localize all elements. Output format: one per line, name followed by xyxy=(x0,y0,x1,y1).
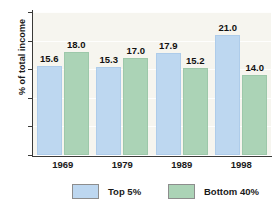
legend-swatch-top5-icon xyxy=(72,184,99,199)
y-axis-title: % of total income xyxy=(17,0,27,127)
y-tick-mark xyxy=(28,155,33,156)
gridline xyxy=(33,12,271,13)
y-tick-mark xyxy=(28,12,33,13)
legend-label-bottom40: Bottom 40% xyxy=(204,187,259,197)
y-tick-mark xyxy=(28,98,33,99)
bar-value-label: 15.3 xyxy=(92,55,125,65)
bar-value-label: 17.0 xyxy=(119,46,152,56)
x-axis-line xyxy=(32,156,272,157)
bar-value-label: 18.0 xyxy=(60,40,93,50)
bar-value-label: 21.0 xyxy=(211,23,244,33)
bar-value-label: 15.6 xyxy=(33,54,66,64)
bar-top5-1989 xyxy=(156,53,181,155)
y-axis-line xyxy=(32,10,33,157)
x-axis-label-1989: 1989 xyxy=(152,160,212,170)
bar-bottom40-1998 xyxy=(242,75,267,155)
chart-legend: Top 5% Bottom 40% xyxy=(0,184,276,204)
bar-bottom40-1969 xyxy=(64,52,89,155)
bar-bottom40-1979 xyxy=(123,58,148,155)
bar-top5-1979 xyxy=(96,67,121,155)
bar-chart: % of total income 0510152025 15.618.015.… xyxy=(0,0,276,207)
y-tick-mark xyxy=(28,41,33,42)
bar-top5-1969 xyxy=(37,66,62,155)
y-tick-mark xyxy=(28,69,33,70)
legend-label-top5: Top 5% xyxy=(108,187,141,197)
legend-item-top5: Top 5% xyxy=(72,184,141,199)
x-axis-label-1979: 1979 xyxy=(93,160,153,170)
y-tick-mark xyxy=(28,126,33,127)
x-axis-label-1998: 1998 xyxy=(212,160,272,170)
bar-value-label: 14.0 xyxy=(238,63,271,73)
legend-swatch-bottom40-icon xyxy=(168,184,195,199)
x-axis-label-1969: 1969 xyxy=(33,160,93,170)
bar-value-label: 17.9 xyxy=(152,41,185,51)
bar-value-label: 15.2 xyxy=(179,56,212,66)
bar-top5-1998 xyxy=(215,35,240,155)
bar-bottom40-1989 xyxy=(183,68,208,155)
legend-item-bottom40: Bottom 40% xyxy=(168,184,259,199)
